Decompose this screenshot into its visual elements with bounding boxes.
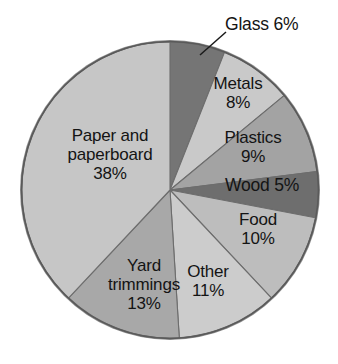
slice-label-paper-value: 38%: [47, 164, 173, 183]
slice-label-wood: Wood 5%: [225, 176, 299, 195]
slice-label-food: Food 10%: [227, 210, 289, 248]
pie-chart: Glass 6% Metals 8% Plastics 9% Wood 5% F…: [0, 0, 338, 364]
slice-label-paper-name1: Paper and: [72, 126, 149, 145]
slice-label-metals: Metals 8%: [199, 74, 277, 112]
slice-label-plastics: Plastics 9%: [210, 128, 296, 166]
slice-label-yard-trimmings-name1: Yard: [127, 256, 161, 275]
slice-label-glass: Glass 6%: [225, 15, 298, 34]
slice-label-food-value: 10%: [227, 229, 289, 248]
slice-label-yard-trimmings-name2: trimmings: [94, 275, 194, 294]
slice-label-food-name: Food: [239, 210, 277, 229]
slice-label-plastics-name: Plastics: [225, 128, 282, 147]
slice-label-metals-name: Metals: [214, 74, 263, 93]
slice-label-metals-value: 8%: [199, 93, 277, 112]
slice-label-paper-name2: paperboard: [47, 145, 173, 164]
slice-label-plastics-value: 9%: [210, 147, 296, 166]
slice-label-paper-and-paperboard: Paper and paperboard 38%: [47, 126, 173, 183]
slice-label-yard-trimmings-value: 13%: [94, 294, 194, 313]
slice-label-yard-trimmings: Yard trimmings 13%: [94, 256, 194, 313]
